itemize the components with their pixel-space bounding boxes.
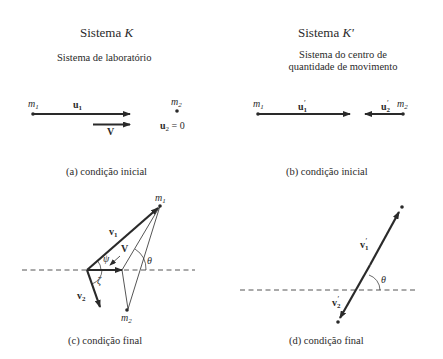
label-u1-prime: u1′ xyxy=(298,99,306,114)
prime: ′ xyxy=(338,295,340,304)
subscript: 2 xyxy=(82,295,86,303)
label-psi: ψ xyxy=(103,253,109,264)
label-v1: v1 xyxy=(109,226,118,239)
label-theta: θ xyxy=(381,274,386,285)
label-V: V xyxy=(121,243,128,254)
equation: = 0 xyxy=(169,120,185,131)
theta-angle-arc xyxy=(369,275,380,290)
label-V: V xyxy=(107,126,114,137)
label-m1: m1 xyxy=(155,192,166,205)
label-v1-prime: v1′ xyxy=(360,237,367,252)
caption-c: (c) condição final xyxy=(68,335,142,346)
particle-1-dot xyxy=(400,205,404,209)
right-panel-title: Sistema K' xyxy=(298,25,354,41)
label-v2-prime: v2′ xyxy=(332,295,339,310)
title-prefix: Sistema xyxy=(298,25,342,40)
v1-prime-vector-arrow xyxy=(370,212,399,265)
label-m1: m1 xyxy=(28,98,39,111)
label-zeta: ζ xyxy=(97,275,101,286)
label-theta: θ xyxy=(147,255,152,266)
prime: ′ xyxy=(304,99,306,108)
label-u1: u1 xyxy=(73,99,82,112)
label-m2: m2 xyxy=(397,98,408,111)
label-m2: m2 xyxy=(121,312,132,325)
subscript: 2 xyxy=(404,103,408,111)
thin-line-v-to-m1 xyxy=(122,206,160,270)
title-prefix: Sistema xyxy=(80,25,124,40)
subtitle-line-2: quantidade de movimento xyxy=(268,61,418,73)
subscript: 2 xyxy=(128,317,132,325)
subscript: 1 xyxy=(162,197,166,205)
subscript: 1 xyxy=(79,104,83,112)
label-m1: m1 xyxy=(253,98,264,111)
caption-d: (d) condição final xyxy=(289,335,364,346)
V-label-pointer-arrow xyxy=(110,256,120,265)
prime: ′ xyxy=(387,99,389,108)
subscript: 2 xyxy=(178,101,182,109)
psi-angle-arc xyxy=(98,261,102,270)
thin-line-v2-to-m2 xyxy=(100,307,128,309)
label-u2-prime: u2′ xyxy=(381,99,389,114)
caption-b: (b) condição inicial xyxy=(286,166,368,177)
thin-line-v-to-m2 xyxy=(122,270,128,309)
mass-m2-dot xyxy=(175,109,179,113)
caption-a: (a) condição inicial xyxy=(66,166,147,177)
diagram-a-graphics xyxy=(31,109,179,124)
left-panel-title: Sistema K xyxy=(80,25,133,41)
subtitle-line-1: Sistema do centro de xyxy=(268,49,418,61)
subscript: 1 xyxy=(35,103,39,111)
label-u2-equals-zero: u2 = 0 xyxy=(160,120,185,133)
left-panel-subtitle: Sistema de laboratório xyxy=(57,52,151,64)
title-symbol: K xyxy=(124,25,133,40)
label-m2: m2 xyxy=(171,96,182,109)
title-symbol: K' xyxy=(342,25,353,40)
subscript: 1 xyxy=(114,231,118,239)
prime: ′ xyxy=(366,237,368,246)
theta-angle-arc xyxy=(135,249,146,270)
particle-2-dot xyxy=(336,320,340,324)
subscript: 1 xyxy=(260,103,264,111)
v2-prime-vector-arrow xyxy=(340,265,370,318)
diagram-d-graphics xyxy=(240,205,418,324)
right-panel-subtitle: Sistema do centro de quantidade de movim… xyxy=(268,49,418,73)
label-v2: v2 xyxy=(77,290,86,303)
